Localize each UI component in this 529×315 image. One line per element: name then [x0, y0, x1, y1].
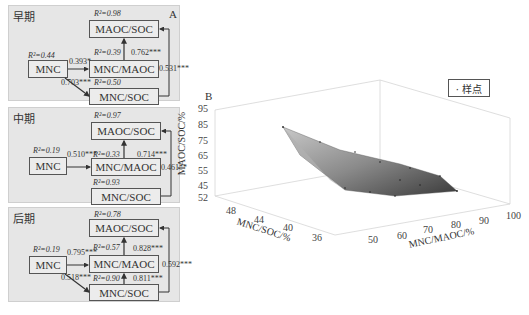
surface-plot-3d [0, 0, 529, 315]
y-tick: 90 [479, 215, 489, 226]
z-tick: 95 [198, 103, 208, 114]
z-tick: 45 [198, 180, 208, 191]
y-tick: 50 [368, 234, 378, 245]
z-tick: 52 [198, 192, 208, 203]
x-tick: 36 [312, 232, 322, 243]
z-tick: 65 [198, 150, 208, 161]
z-tick: 55 [198, 165, 208, 176]
y-tick: 60 [397, 230, 407, 241]
x-tick: 48 [226, 205, 236, 216]
z-axis-label: MAOC/SOC/% [176, 112, 187, 175]
y-tick: 100 [506, 210, 521, 221]
z-tick: 75 [198, 135, 208, 146]
z-tick: 85 [198, 119, 208, 130]
